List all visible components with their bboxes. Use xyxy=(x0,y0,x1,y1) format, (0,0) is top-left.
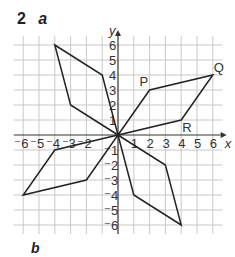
point-label-q: Q xyxy=(214,60,224,75)
x-tick-label: 2 xyxy=(147,136,154,151)
y-tick-label: 5 xyxy=(109,53,116,68)
y-tick-label: 6 xyxy=(109,38,116,53)
point-label-p: P xyxy=(140,74,149,89)
point-label-r: R xyxy=(182,120,191,135)
x-tick-label: 5 xyxy=(194,136,201,151)
y-tick-label: ⁻3 xyxy=(104,173,118,188)
x-axis-label: x xyxy=(224,136,232,151)
y-tick-label: ⁻4 xyxy=(104,188,118,203)
y-tick-label: ⁻6 xyxy=(104,218,118,233)
y-tick-label: ⁻5 xyxy=(104,203,118,218)
x-tick-label: ⁻5 xyxy=(30,136,44,151)
x-tick-label: ⁻3 xyxy=(62,136,76,151)
x-tick-label: 6 xyxy=(210,136,217,151)
y-tick-label: 3 xyxy=(109,83,116,98)
coordinate-grid: xy⁻6⁻5⁻4⁻3⁻2123456654321⁻1⁻2⁻3⁻4⁻5⁻6PQR xyxy=(0,0,235,257)
y-tick-label: 4 xyxy=(109,68,116,83)
part-b-label: b xyxy=(31,240,40,256)
x-tick-label: 3 xyxy=(162,136,169,151)
x-tick-label: ⁻6 xyxy=(14,136,28,151)
x-tick-label: 4 xyxy=(178,136,185,151)
y-axis-arrow-icon xyxy=(115,30,121,36)
y-tick-label: ⁻2 xyxy=(104,158,118,173)
